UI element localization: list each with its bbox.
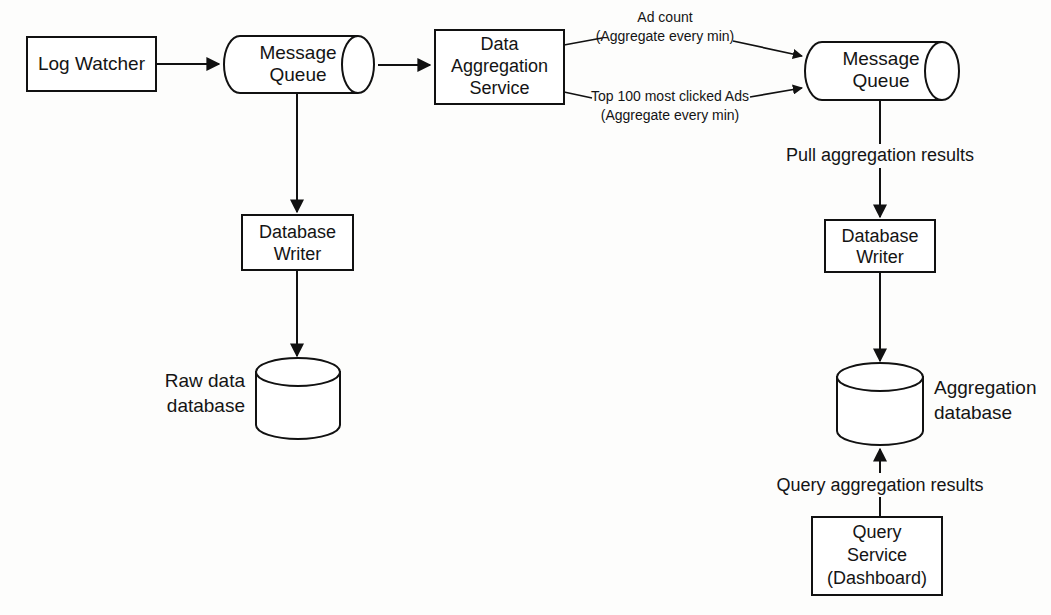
node-database-writer-raw[interactable]: Database Writer (242, 215, 353, 270)
edge-label-ad-count-line1: Ad count (637, 9, 692, 25)
node-raw-data-database-label-line1: Raw data (165, 370, 246, 391)
node-raw-data-database[interactable]: Raw data database (165, 358, 340, 439)
diagram-canvas: Ad count (Aggregate every min) Top 100 m… (0, 0, 1051, 615)
node-message-queue-2-label-line1: Message (842, 48, 919, 69)
node-query-service-label-line1: Query (852, 522, 901, 542)
node-data-aggregation-service[interactable]: Data Aggregation Service (435, 30, 564, 104)
node-message-queue-1-label-line2: Queue (269, 64, 326, 85)
node-database-writer-agg-label-line2: Writer (856, 247, 904, 267)
architecture-diagram: Ad count (Aggregate every min) Top 100 m… (0, 0, 1051, 615)
node-aggregation-database-label-line2: database (934, 402, 1012, 423)
node-log-watcher-label: Log Watcher (38, 53, 146, 74)
node-query-service-label-line2: Service (847, 545, 907, 565)
node-raw-data-database-label-line2: database (167, 395, 245, 416)
node-data-aggregation-service-label-line2: Aggregation (451, 56, 548, 76)
node-data-aggregation-service-label-line1: Data (480, 34, 519, 54)
node-aggregation-database[interactable]: Aggregation database (837, 363, 1036, 445)
edge-label-pull-aggregation-results: Pull aggregation results (786, 145, 974, 165)
node-aggregation-database-label-line1: Aggregation (934, 377, 1036, 398)
node-message-queue-2[interactable]: Message Queue (805, 42, 959, 100)
node-query-service-label-line3: (Dashboard) (827, 568, 927, 588)
edge-label-top-100-line2: (Aggregate every min) (601, 107, 740, 123)
edge-label-query-aggregation-results: Query aggregation results (776, 475, 983, 495)
edge-data-aggregation-service-to-message-queue-2-ad-count: Ad count (Aggregate every min) (564, 9, 802, 56)
node-database-writer-agg[interactable]: Database Writer (825, 220, 935, 272)
node-query-service[interactable]: Query Service (Dashboard) (812, 517, 942, 595)
node-message-queue-1-label-line1: Message (259, 42, 336, 63)
node-data-aggregation-service-label-line3: Service (469, 78, 529, 98)
edge-query-service-to-aggregation-database: Query aggregation results (776, 449, 983, 517)
edge-message-queue-2-to-database-writer-agg: Pull aggregation results (786, 100, 974, 217)
edge-label-top-100-line1: Top 100 most clicked Ads (591, 88, 749, 104)
node-message-queue-1[interactable]: Message Queue (224, 36, 374, 93)
node-message-queue-2-label-line2: Queue (852, 70, 909, 91)
edge-label-ad-count-line2: (Aggregate every min) (596, 28, 735, 44)
node-log-watcher[interactable]: Log Watcher (27, 37, 156, 91)
edge-data-aggregation-service-to-message-queue-2-top-100: Top 100 most clicked Ads (Aggregate ever… (564, 88, 802, 123)
node-database-writer-raw-label-line1: Database (259, 222, 336, 242)
node-database-writer-raw-label-line2: Writer (274, 244, 322, 264)
node-database-writer-agg-label-line1: Database (841, 226, 918, 246)
